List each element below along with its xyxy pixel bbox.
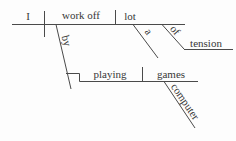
preposition-by-word: by	[60, 34, 74, 48]
computer-word: computer	[169, 81, 202, 122]
prep-object-word: tension	[190, 37, 222, 49]
object-word: lot	[124, 10, 136, 22]
reed-kellogg-diagram: I work off lot tension playing games a o…	[0, 0, 236, 141]
subject-word: I	[26, 10, 30, 22]
article-word: a	[143, 26, 156, 37]
verb-word: work off	[62, 9, 100, 21]
gerund-object-word: games	[157, 68, 185, 80]
sentence-diagram-canvas: I work off lot tension playing games a o…	[0, 0, 236, 141]
gerund-word: playing	[94, 68, 127, 80]
